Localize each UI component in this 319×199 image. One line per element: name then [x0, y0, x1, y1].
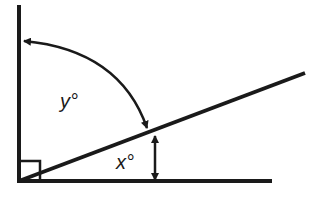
y-arc-arrow — [24, 41, 147, 128]
x-angle-label: x° — [115, 151, 134, 173]
y-angle-label: y° — [58, 90, 78, 112]
angle-diagram: y° x° — [0, 0, 319, 199]
